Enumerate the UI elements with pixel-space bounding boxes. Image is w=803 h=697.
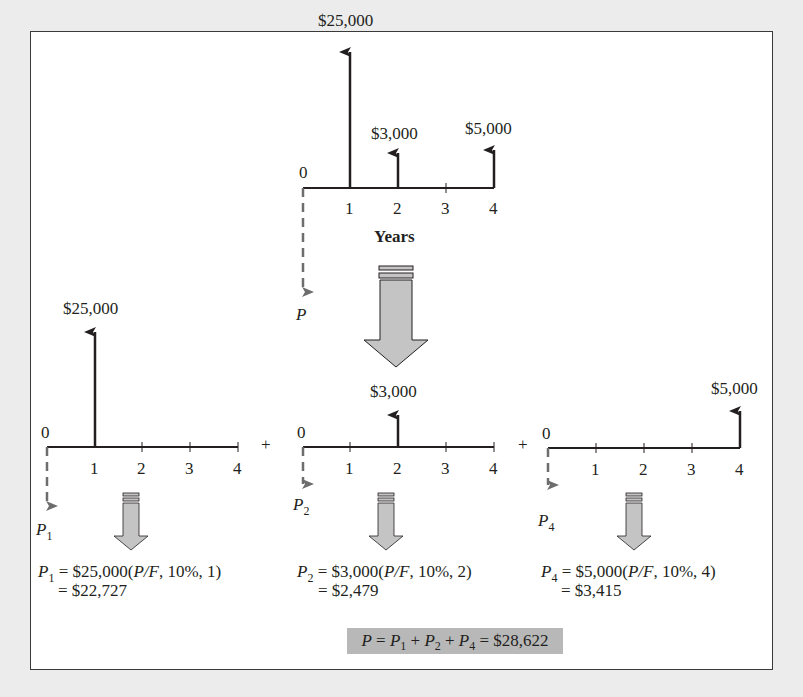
plus-sign-1: + [261,436,271,453]
top-tick-4: 4 [489,200,498,217]
top-pv-label: P [296,306,306,323]
top-amount-year-2: $3,000 [371,125,418,142]
sub3-tick-1: 1 [591,461,600,478]
sub2-pv-label: P2 [293,496,309,513]
equation-p4: P4 = $5,000(P/F, 10%, 4) [541,563,716,580]
plus-sign-2: + [518,436,528,453]
top-tick-2: 2 [393,200,402,217]
top-amount-year-4: $5,000 [465,120,512,137]
sub2-tick-1: 1 [345,460,354,477]
small-down-arrow-icon-1 [114,493,148,550]
top-tick-1: 1 [345,200,354,217]
sub2-tick-4: 4 [489,460,498,477]
sub-timeline-1 [47,332,238,506]
equation-p2: P2 = $3,000(P/F, 10%, 2) [297,563,472,580]
top-tick-3: 3 [441,200,450,217]
sub2-tick-3: 3 [441,460,450,477]
years-axis-label: Years [374,228,415,245]
sub1-tick-1: 1 [90,460,99,477]
sub1-tick-3: 3 [185,460,194,477]
equation-p2-result: = $2,479 [318,582,379,599]
sub3-zero-label: 0 [542,425,551,442]
sub2-zero-label: 0 [297,424,306,441]
big-down-arrow-icon [364,266,428,367]
top-zero-label: 0 [299,164,308,181]
total-present-value-box: P = P1 + P2 + P4 = $28,622 [347,628,563,654]
equation-p1: P1 = $25,000(P/F, 10%, 1) [38,563,221,580]
sub3-tick-4: 4 [735,461,744,478]
sub1-tick-2: 2 [137,460,146,477]
top-timeline [303,52,494,292]
equation-p1-result: = $22,727 [58,582,127,599]
sub1-tick-4: 4 [233,460,242,477]
equation-p4-result: = $3,415 [561,582,622,599]
sub2-tick-2: 2 [393,460,402,477]
sub3-pv-label: P4 [538,512,554,529]
sub3-tick-2: 2 [639,461,648,478]
top-amount-year-1: $25,000 [318,12,373,29]
sub2-amount: $3,000 [370,383,417,400]
sub1-zero-label: 0 [41,424,50,441]
sub1-pv-label: P1 [36,521,52,538]
sub3-amount: $5,000 [711,380,758,397]
sub3-tick-3: 3 [687,461,696,478]
sub1-amount: $25,000 [63,300,118,317]
small-down-arrow-icon-2 [369,493,403,550]
small-down-arrow-icon-3 [617,493,651,550]
